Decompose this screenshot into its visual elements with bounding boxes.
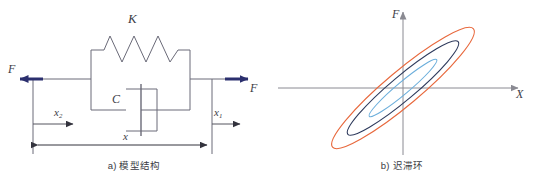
y-axis-label: F — [392, 8, 399, 20]
displacement-label-x1-subscript: 1 — [219, 112, 222, 119]
hysteresis-loop-drawing — [268, 0, 536, 179]
spring-label: K — [128, 12, 137, 25]
total-displacement-label: x — [123, 131, 128, 142]
force-label-left: F — [8, 63, 15, 75]
displacement-label-x1: x1 — [214, 107, 222, 118]
figure-container: K C F F x2 x1 x a) 模型结构 — [0, 0, 536, 179]
spring-element — [91, 36, 190, 79]
damper-label: C — [112, 93, 120, 105]
displacement-label-x2-subscript: 2 — [59, 112, 62, 119]
structure-frame — [33, 79, 235, 154]
x-axis-label: X — [516, 88, 523, 100]
caption-panel-b: b) 迟滞环 — [268, 158, 536, 172]
displacement-label-x2: x2 — [54, 107, 62, 118]
damper-element — [91, 79, 190, 136]
panel-hysteresis-loop: F X b) 迟滞环 — [268, 0, 536, 179]
axes — [278, 12, 518, 155]
panel-model-structure: K C F F x2 x1 x a) 模型结构 — [0, 0, 268, 179]
force-label-right: F — [250, 82, 257, 94]
model-structure-drawing — [0, 0, 268, 179]
caption-panel-a: a) 模型结构 — [0, 158, 268, 172]
